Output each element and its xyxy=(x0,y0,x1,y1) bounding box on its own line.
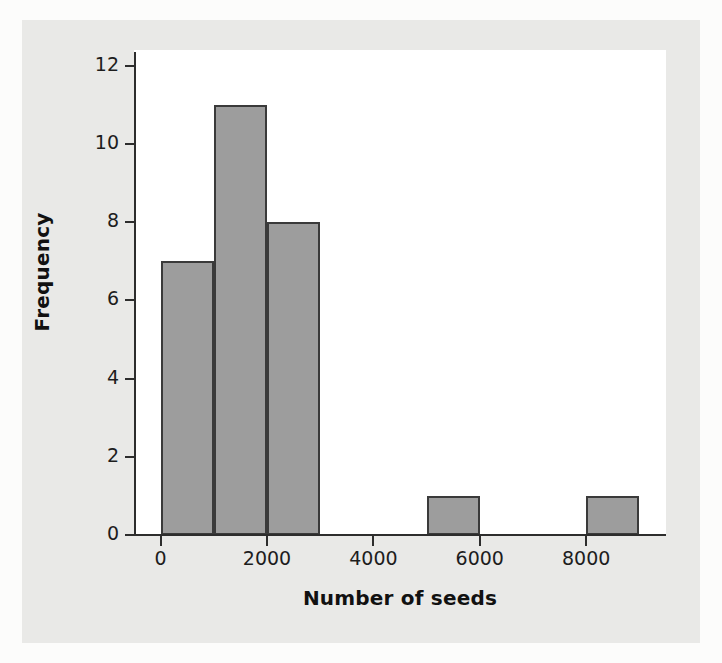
y-axis-tick-label: 4 xyxy=(79,368,119,387)
histogram-figure: 024681012 02000400060008000 Frequency Nu… xyxy=(0,0,722,663)
y-axis-tick-label: 6 xyxy=(79,289,119,308)
y-axis-tick-label: 10 xyxy=(79,133,119,152)
y-axis-line xyxy=(134,52,136,536)
x-axis-tick-label: 0 xyxy=(155,547,167,569)
y-axis-tick xyxy=(125,299,134,301)
x-axis-tick xyxy=(585,536,587,546)
y-axis-tick xyxy=(125,534,134,536)
histogram-bar xyxy=(214,105,267,535)
y-axis-tick-label: 8 xyxy=(79,211,119,230)
histogram-bar xyxy=(267,222,320,535)
x-axis-tick-label: 4000 xyxy=(349,547,397,569)
y-axis-tick-label: 2 xyxy=(79,446,119,465)
y-axis-tick xyxy=(125,378,134,380)
x-axis-tick xyxy=(372,536,374,546)
y-axis-tick xyxy=(125,65,134,67)
y-axis-tick xyxy=(125,456,134,458)
x-axis-tick-label: 6000 xyxy=(456,547,504,569)
histogram-bar xyxy=(161,261,214,535)
y-axis-tick xyxy=(125,143,134,145)
x-axis-tick xyxy=(160,536,162,546)
y-axis-tick xyxy=(125,221,134,223)
y-axis-tick-label: 12 xyxy=(79,55,119,74)
x-axis-tick-label: 2000 xyxy=(243,547,291,569)
histogram-bar xyxy=(586,496,639,535)
y-axis-title: Frequency xyxy=(30,197,54,347)
x-axis-tick xyxy=(266,536,268,546)
histogram-bar xyxy=(427,496,480,535)
y-axis-tick-label: 0 xyxy=(79,524,119,543)
x-axis-title: Number of seeds xyxy=(134,586,666,610)
x-axis-tick xyxy=(479,536,481,546)
x-axis-tick-label: 8000 xyxy=(562,547,610,569)
